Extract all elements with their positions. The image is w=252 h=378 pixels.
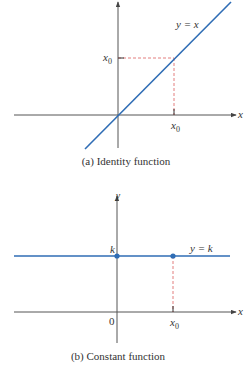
x-tick-label: x0 [170,119,180,134]
curve-label-y-equals-x: y = x [175,18,199,30]
point-x0-k [170,253,175,258]
y-tick-label: x0 [102,51,112,66]
caption-constant: (b) Constant function [71,350,166,363]
x-tick-label: x0 [169,316,179,331]
point-k [114,253,119,258]
y-axis-label: y [115,190,121,201]
x-axis-label: x [237,108,243,120]
caption-identity: (a) Identity function [82,155,171,168]
panel-constant-function: y k y = k 0 x0 x (b) Constant function [14,190,243,363]
figure: y = x x0 x0 x (a) Identity function y k … [0,0,252,378]
identity-line [85,2,231,149]
curve-label-y-equals-k: y = k [189,242,214,254]
panel-identity-function: y = x x0 x0 x (a) Identity function [14,2,243,168]
k-label: k [110,243,116,255]
x-axis-label: x [237,305,243,317]
origin-label: 0 [109,315,115,327]
